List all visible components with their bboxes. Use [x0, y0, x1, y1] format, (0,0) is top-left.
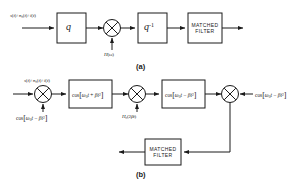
matched-filter-line2-a: FILTER	[195, 28, 214, 34]
matched-filter-label-b: MATCHED FILTER	[146, 146, 180, 158]
q-forward-label: q	[66, 21, 71, 32]
caption-b: (b)	[136, 170, 146, 179]
weighting-label-b: Hc(2βt)	[122, 114, 136, 120]
weighting-label-a: H(ω)	[104, 52, 114, 57]
diagram-b	[13, 80, 253, 165]
inverse-transform-label: q-1	[144, 21, 154, 32]
input-label-a: s(t)+nc(t)+i(t)	[10, 13, 36, 19]
lo-label-b3: cos[ω0t − βt2]	[255, 91, 286, 100]
q-forward-box	[57, 13, 86, 43]
chirp-filter-2-label: cos[ω0t − βt2]	[165, 91, 196, 100]
matched-filter-line2-b: FILTER	[153, 152, 172, 158]
input-label-b: s(t)+nc(t)+i(t)	[24, 78, 50, 84]
caption-a: (a)	[136, 62, 145, 71]
matched-filter-line1-b: MATCHED	[149, 146, 176, 152]
chirp-filter-1-label: cos[ω0t + βt2]	[72, 91, 103, 100]
matched-filter-line1-a: MATCHED	[191, 22, 218, 28]
lo-label-b1: cos[ω0t − βt2]	[16, 114, 47, 123]
matched-filter-label-a: MATCHED FILTER	[189, 22, 221, 34]
